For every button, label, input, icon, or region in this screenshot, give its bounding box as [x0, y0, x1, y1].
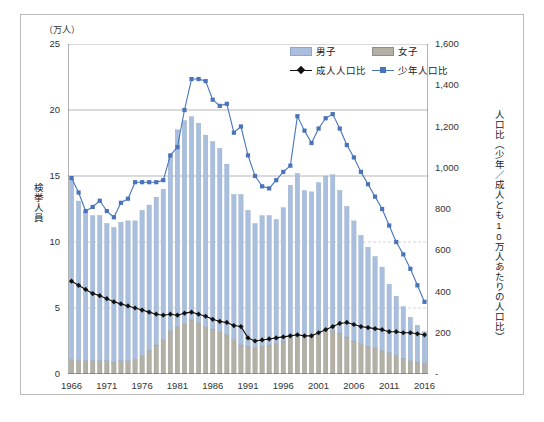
- x-tick-2006: 2006: [334, 380, 374, 391]
- right-tick-600: 600: [435, 244, 469, 255]
- left-tick-5: 5: [34, 302, 60, 313]
- right-tick-1200: 1,200: [435, 121, 469, 132]
- chart-figure: （万人） 検挙人員 人口比（少年／成人とも10万人あたりの人口比） 男子 女子 …: [0, 0, 544, 422]
- x-tick-1986: 1986: [193, 380, 233, 391]
- left-tick-15: 15: [34, 170, 60, 181]
- right-axis-title: 人口比（少年／成人とも10万人あたりの人口比）: [492, 110, 505, 345]
- x-tick-1966: 1966: [52, 380, 92, 391]
- x-tick-1981: 1981: [157, 380, 197, 391]
- x-tick-1996: 1996: [263, 380, 303, 391]
- right-axis-title-text: 人口比（少年／成人とも10万人あたりの人口比）: [493, 110, 505, 342]
- left-tick-25: 25: [34, 38, 60, 49]
- x-tick-1991: 1991: [228, 380, 268, 391]
- chart-canvas: [68, 44, 428, 374]
- right-tick-800: 800: [435, 203, 469, 214]
- left-tick-20: 20: [34, 104, 60, 115]
- x-tick-2016: 2016: [404, 380, 444, 391]
- x-tick-2011: 2011: [369, 380, 409, 391]
- plot-area: [68, 44, 428, 374]
- right-tick-1000: 1,000: [435, 162, 469, 173]
- right-tick-200: 200: [435, 327, 469, 338]
- right-tick-1600: 1,600: [435, 38, 469, 49]
- x-tick-1971: 1971: [87, 380, 127, 391]
- left-tick-0: 0: [34, 368, 60, 379]
- left-axis-unit: （万人）: [44, 23, 80, 36]
- left-tick-10: 10: [34, 236, 60, 247]
- left-axis-title-text: 検挙人員: [33, 183, 44, 223]
- x-tick-2001: 2001: [299, 380, 339, 391]
- right-tick-0: -: [435, 368, 469, 379]
- left-axis-title: 検挙人員: [32, 183, 44, 225]
- right-tick-400: 400: [435, 286, 469, 297]
- right-tick-1400: 1,400: [435, 79, 469, 90]
- x-tick-1976: 1976: [122, 380, 162, 391]
